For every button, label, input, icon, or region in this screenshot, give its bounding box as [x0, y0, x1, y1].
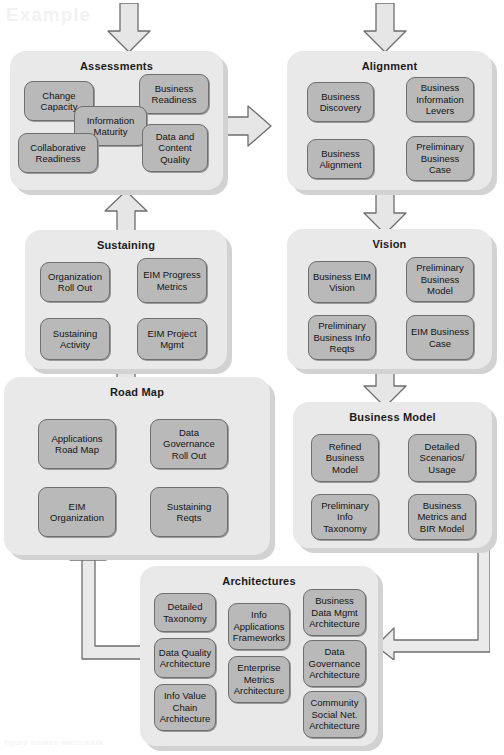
watermark-bottom: figure source watermark	[4, 738, 104, 747]
box-eim-project-mgmt[interactable]: EIM Project Mgmt	[137, 318, 207, 360]
diagram-canvas: Example figure source watermark	[0, 0, 504, 755]
panel-title-alignment: Alignment	[287, 60, 492, 72]
arrow-into-alignment	[363, 3, 407, 53]
box-refined-business-model[interactable]: Refined Business Model	[311, 434, 379, 482]
box-applications-road-map[interactable]: Applications Road Map	[38, 419, 116, 469]
box-info-value-chain-architecture[interactable]: Info Value Chain Architecture	[154, 684, 216, 731]
box-preliminary-business-model[interactable]: Preliminary Business Model	[406, 257, 474, 302]
panel-businessmodel[interactable]: Business Model Refined Business Model De…	[293, 402, 492, 548]
panel-sustaining[interactable]: Sustaining Organization Roll Out EIM Pro…	[25, 230, 227, 369]
box-eim-business-case[interactable]: EIM Business Case	[406, 315, 474, 360]
box-sustaining-activity[interactable]: Sustaining Activity	[40, 318, 110, 360]
panel-title-assessments: Assessments	[10, 60, 223, 72]
panel-architectures[interactable]: Architectures Detailed Taxonomy Info App…	[140, 566, 378, 746]
box-eim-organization[interactable]: EIM Organization	[38, 487, 116, 537]
panel-title-vision: Vision	[287, 238, 492, 250]
panel-title-businessmodel: Business Model	[293, 411, 492, 423]
arrow-businessmodel-to-architectures	[368, 548, 490, 660]
box-collaborative-readiness[interactable]: Collaborative Readiness	[18, 133, 98, 173]
panel-assessments[interactable]: Assessments Change Capacity Business Rea…	[10, 51, 223, 190]
box-eim-progress-metrics[interactable]: EIM Progress Metrics	[137, 258, 207, 303]
panel-title-architectures: Architectures	[140, 575, 378, 587]
box-data-governance-roll-out[interactable]: Data Governance Roll Out	[150, 419, 228, 469]
box-business-discovery[interactable]: Business Discovery	[307, 82, 374, 122]
box-info-applications-frameworks[interactable]: Info Applications Frameworks	[228, 603, 290, 650]
box-business-metrics-and-bir-model[interactable]: Business Metrics and BIR Model	[408, 494, 476, 540]
box-detailed-scenarios-usage[interactable]: Detailed Scenarios/ Usage	[408, 434, 476, 482]
box-preliminary-business-info-reqts[interactable]: Preliminary Business Info Reqts	[308, 315, 376, 360]
panel-title-roadmap: Road Map	[4, 386, 270, 398]
box-detailed-taxonomy[interactable]: Detailed Taxonomy	[154, 593, 216, 632]
arrow-sustaining-to-assessments	[104, 190, 148, 232]
arrow-assessments-to-alignment	[217, 105, 272, 147]
box-business-alignment[interactable]: Business Alignment	[307, 139, 374, 179]
box-sustaining-reqts[interactable]: Sustaining Reqts	[150, 487, 228, 537]
box-data-and-content-quality[interactable]: Data and Content Quality	[142, 124, 208, 172]
box-business-eim-vision[interactable]: Business EIM Vision	[308, 261, 376, 303]
box-community-social-net-architecture[interactable]: Community Social Net. Architecture	[303, 691, 366, 738]
box-preliminary-info-taxonomy[interactable]: Preliminary Info Taxonomy	[311, 494, 379, 540]
box-preliminary-business-case[interactable]: Preliminary Business Case	[406, 136, 474, 181]
box-business-readiness[interactable]: Business Readiness	[139, 74, 209, 114]
watermark-top: Example	[6, 4, 91, 26]
box-enterprise-metrics-architecture[interactable]: Enterprise Metrics Architecture	[228, 656, 290, 703]
box-business-information-levers[interactable]: Business Information Levers	[406, 77, 474, 122]
box-data-governance-architecture[interactable]: Data Governance Architecture	[303, 640, 366, 687]
panel-title-sustaining: Sustaining	[25, 239, 227, 251]
panel-vision[interactable]: Vision Business EIM Vision Preliminary B…	[287, 229, 492, 369]
box-business-data-mgmt-architecture[interactable]: Business Data Mgmt Architecture	[303, 589, 366, 636]
box-organization-roll-out[interactable]: Organization Roll Out	[40, 262, 110, 302]
arrow-into-assessments	[107, 3, 151, 53]
panel-alignment[interactable]: Alignment Business Discovery Business In…	[287, 51, 492, 190]
box-data-quality-architecture[interactable]: Data Quality Architecture	[154, 638, 216, 678]
panel-roadmap[interactable]: Road Map Applications Road Map Data Gove…	[4, 377, 270, 555]
